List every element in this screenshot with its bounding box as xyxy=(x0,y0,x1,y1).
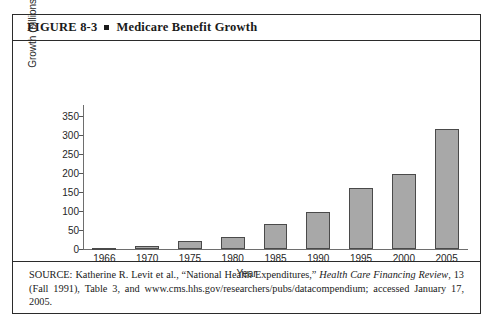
bar-2005 xyxy=(435,129,459,249)
x-tick-label-1985: 1985 xyxy=(264,253,286,264)
x-tick-label-1990: 1990 xyxy=(307,253,329,264)
x-axis-title: Year xyxy=(13,268,480,279)
y-tick-mark-100 xyxy=(79,211,83,212)
y-tick-mark-300 xyxy=(79,135,83,136)
y-tick-mark-50 xyxy=(79,230,83,231)
bar-2000 xyxy=(392,174,416,249)
bar-1975 xyxy=(178,241,202,249)
x-tick-label-2000: 2000 xyxy=(393,253,415,264)
figure-box: FIGURE 8-3 Medicare Benefit Growth Growt… xyxy=(12,14,481,314)
y-tick-mark-200 xyxy=(79,173,83,174)
x-tick-label-1995: 1995 xyxy=(350,253,372,264)
x-tick-label-1975: 1975 xyxy=(179,253,201,264)
figure-title-bar: FIGURE 8-3 Medicare Benefit Growth xyxy=(13,15,480,41)
bar-1970 xyxy=(135,246,159,249)
bar-1995 xyxy=(349,188,373,249)
plot-wrapper: Growth (billions of dollars) 05010015020… xyxy=(13,41,480,261)
x-tick-label-2005: 2005 xyxy=(435,253,457,264)
y-tick-mark-150 xyxy=(79,192,83,193)
x-tick-label-1966: 1966 xyxy=(93,253,115,264)
bars-layer: 196619701975198019851990199520002005 xyxy=(13,41,480,261)
x-tick-label-1970: 1970 xyxy=(136,253,158,264)
x-tick-label-1980: 1980 xyxy=(222,253,244,264)
square-bullet-icon xyxy=(104,25,109,30)
bar-1990 xyxy=(306,212,330,249)
y-tick-mark-250 xyxy=(79,154,83,155)
bar-1966 xyxy=(92,248,116,250)
bar-1985 xyxy=(264,224,288,249)
bar-1980 xyxy=(221,237,245,249)
y-tick-mark-350 xyxy=(79,116,83,117)
chart-plot-area: Growth (billions of dollars) 05010015020… xyxy=(13,41,480,261)
y-tick-mark-0 xyxy=(79,249,83,250)
figure-title: Medicare Benefit Growth xyxy=(116,20,257,35)
